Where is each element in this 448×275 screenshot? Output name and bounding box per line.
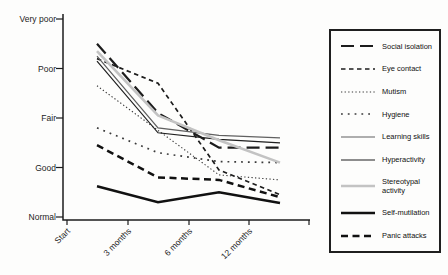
legend-line-sample-hygiene xyxy=(341,109,375,119)
series-line-learning-skills xyxy=(97,56,280,138)
legend-line-sample-eye-contact xyxy=(341,64,375,74)
legend-label-hyperactivity: Hyperactivity xyxy=(382,155,439,164)
legend-label-hygiene: Hygiene xyxy=(382,110,439,119)
legend-line-sample-learning-skills xyxy=(341,132,375,142)
legend-box: Social isolationEye contactMutismHygiene… xyxy=(329,29,441,253)
series-line-stereotypal-activity xyxy=(97,51,280,162)
y-axis-label-poor: Poor xyxy=(0,64,56,74)
legend-item-panic-attacks: Panic attacks xyxy=(341,231,439,241)
y-axis-label-very-poor: Very poor xyxy=(0,14,56,24)
legend-item-learning-skills: Learning skills xyxy=(341,132,439,142)
legend-label-panic-attacks: Panic attacks xyxy=(382,231,439,240)
legend-label-mutism: Mutism xyxy=(382,87,439,96)
legend-item-mutism: Mutism xyxy=(341,87,439,97)
legend-item-self-mutilation: Self-mutilation xyxy=(341,208,439,218)
outcomes-line-chart-figure: Very poorPoorFairGoodNormal Start3 month… xyxy=(0,0,448,275)
legend-item-social-isolation: Social isolation xyxy=(341,41,439,51)
axis-ticks xyxy=(56,19,309,225)
legend-item-hyperactivity: Hyperactivity xyxy=(341,155,439,165)
legend-line-sample-mutism xyxy=(341,87,375,97)
legend-label-learning-skills: Learning skills xyxy=(382,132,439,141)
legend-label-self-mutilation: Self-mutilation xyxy=(382,208,439,217)
legend-item-stereotypal-activity: Stereotypal activity xyxy=(341,177,439,195)
legend-item-eye-contact: Eye contact xyxy=(341,64,439,74)
legend-label-eye-contact: Eye contact xyxy=(382,64,439,73)
axis-lines xyxy=(63,14,310,220)
legend-line-sample-social-isolation xyxy=(341,41,375,51)
legend-label-social-isolation: Social isolation xyxy=(382,42,439,51)
legend-label-stereotypal-activity: Stereotypal activity xyxy=(382,177,439,195)
series-line-hygiene xyxy=(97,128,280,163)
y-axis-label-good: Good xyxy=(0,163,56,173)
legend-line-sample-self-mutilation xyxy=(341,208,375,218)
legend-line-sample-panic-attacks xyxy=(341,231,375,241)
legend-line-sample-hyperactivity xyxy=(341,155,375,165)
y-axis-label-normal: Normal xyxy=(0,212,56,222)
legend-line-sample-stereotypal-activity xyxy=(341,181,375,191)
legend-item-hygiene: Hygiene xyxy=(341,109,439,119)
y-axis-label-fair: Fair xyxy=(0,113,56,123)
series-line-mutism xyxy=(97,86,280,180)
